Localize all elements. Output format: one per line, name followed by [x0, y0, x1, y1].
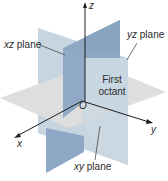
xy-plane-label: xy plane [74, 161, 111, 172]
y-axis-label: y [151, 124, 156, 135]
z-axis-arrowhead [83, 2, 87, 8]
xz-plane-label-var: xz [4, 39, 14, 50]
xz-plane-back [85, 20, 120, 54]
origin-label: O [79, 100, 87, 111]
first-octant-line1: First [95, 74, 129, 86]
first-octant-line2: octant [95, 86, 129, 98]
yz-plane-label: yz plane [127, 29, 164, 40]
xy-plane-label-word: plane [87, 161, 111, 172]
first-octant-label: First octant [95, 74, 129, 97]
xy-plane-label-var: xy [74, 161, 84, 172]
yz-plane-label-word: plane [140, 29, 164, 40]
xz-plane-label: xz plane [4, 39, 41, 50]
diagram-graphics [0, 0, 168, 181]
z-axis-label: z [89, 0, 94, 11]
coordinate-planes-diagram: z x y O xz plane yz plane xy plane First… [0, 0, 168, 181]
yz-plane-leader [127, 43, 137, 60]
x-axis-label: x [17, 138, 22, 149]
yz-plane-label-var: yz [127, 29, 137, 40]
xz-plane-label-word: plane [17, 39, 41, 50]
